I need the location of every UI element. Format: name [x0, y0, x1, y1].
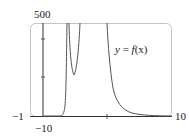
curve-branch-left: [43, 23, 67, 116]
x-max-label: 10: [175, 111, 186, 122]
function-annotation: y = f(x): [115, 44, 148, 55]
y-max-label: 500: [34, 9, 51, 20]
annotation-equals: =: [120, 43, 132, 55]
y-min-label: −1: [12, 111, 24, 122]
x-min-label: −10: [35, 123, 52, 134]
curve-branch-middle: [69, 23, 80, 75]
plot-frame: [31, 24, 172, 117]
function-plot: [0, 0, 189, 137]
curve-branch-right: [107, 23, 172, 116]
annotation-arg: (x): [135, 43, 148, 55]
